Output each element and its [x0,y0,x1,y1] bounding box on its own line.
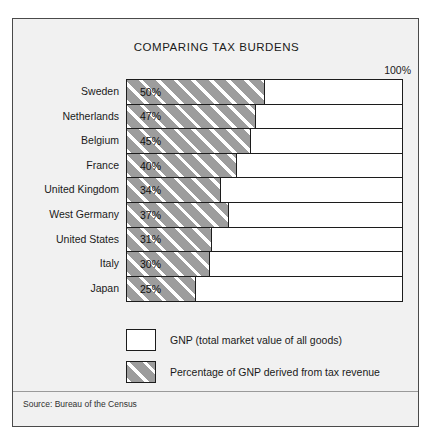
bar-fill-tax-share: 47% [127,105,256,129]
white-square-icon [126,329,156,351]
category-label: Italy [13,251,119,276]
category-label: United Kingdom [13,177,119,202]
bar-value-label: 25% [140,283,161,295]
bar-fill-tax-share: 30% [127,252,210,276]
chart-legend: GNP (total market value of all goods)Per… [126,324,406,388]
category-label: Sweden [13,79,119,104]
bar-fill-tax-share: 34% [127,178,221,202]
bar-row: 30% [127,252,402,277]
bar-row: 40% [127,154,402,179]
divider [13,391,419,392]
category-axis-labels: SwedenNetherlandsBelgiumFranceUnited Kin… [13,79,119,300]
category-label: France [13,153,119,178]
category-label: Japan [13,276,119,301]
category-label: Netherlands [13,104,119,129]
axis-max-label: 100% [384,64,411,76]
bar-row: 31% [127,228,402,253]
bar-fill-tax-share: 31% [127,228,212,252]
bar-value-label: 37% [140,209,161,221]
legend-label: GNP (total market value of all goods) [170,334,342,346]
bar-value-label: 45% [140,135,161,147]
bar-chart-plot: 50%47%45%40%34%37%31%30%25% [126,79,403,302]
bar-row: 50% [127,80,402,105]
bar-row: 37% [127,203,402,228]
bar-fill-tax-share: 50% [127,80,265,104]
bar-row: 34% [127,178,402,203]
bar-fill-tax-share: 40% [127,154,237,178]
bar-row: 25% [127,277,402,302]
bar-fill-tax-share: 25% [127,277,196,302]
legend-item: GNP (total market value of all goods) [126,324,406,356]
page-title: COMPARING TAX BURDENS [13,41,419,53]
legend-item: Percentage of GNP derived from tax reven… [126,356,406,388]
hatched-square-icon [126,361,156,383]
category-label: Belgium [13,128,119,153]
source-note: Source: Bureau of the Census [23,399,137,409]
bar-value-label: 50% [140,86,161,98]
category-label: West Germany [13,202,119,227]
category-label: United States [13,227,119,252]
bar-fill-tax-share: 45% [127,129,251,153]
bar-value-label: 30% [140,258,161,270]
bar-row: 45% [127,129,402,154]
bar-value-label: 31% [140,233,161,245]
bar-value-label: 34% [140,184,161,196]
legend-label: Percentage of GNP derived from tax reven… [170,366,380,378]
bar-row: 47% [127,105,402,130]
bar-value-label: 47% [140,110,161,122]
bar-fill-tax-share: 37% [127,203,229,227]
chart-figure: COMPARING TAX BURDENS 100% SwedenNetherl… [12,18,419,427]
bar-value-label: 40% [140,160,161,172]
